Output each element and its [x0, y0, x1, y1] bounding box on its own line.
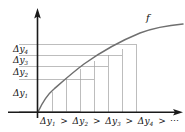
- y-increment-label-1: Δy1: [13, 89, 28, 98]
- y-increment-index-1: 1: [25, 93, 29, 99]
- y-increment-delta-3: Δy: [13, 55, 25, 65]
- inequality-term-1: Δy1: [40, 116, 56, 126]
- inequality-ellipsis: ⋯: [170, 116, 180, 126]
- y-increment-label-2: Δy2: [13, 68, 28, 77]
- y-increment-index-4: 4: [25, 49, 29, 55]
- y-axis: [34, 8, 41, 118]
- y-increment-delta-1: Δy: [13, 88, 25, 98]
- y-increment-delta-2: Δy: [13, 67, 25, 77]
- function-curve: [38, 24, 183, 112]
- horizontal-grid-lines: [19, 45, 136, 112]
- function-label-f: f: [146, 13, 150, 23]
- figure-container: Δy4 Δy3 Δy2 Δy1 f Δy1 > Δy2 > Δy3 > Δy4 …: [0, 0, 185, 132]
- vertical-step-lines: [53, 44, 137, 112]
- y-increment-delta-4: Δy: [13, 44, 25, 54]
- figure-canvas: [0, 0, 185, 132]
- inequality-operator-4: >: [157, 116, 168, 126]
- inequality-operator-3: >: [124, 116, 135, 126]
- y-increment-label-3: Δy3: [13, 56, 28, 65]
- x-axis: [8, 109, 183, 116]
- y-increment-label-4: Δy4: [13, 45, 28, 54]
- inequality-operator-1: >: [59, 116, 70, 126]
- inequality-operator-2: >: [91, 116, 102, 126]
- y-increment-index-3: 3: [25, 60, 29, 66]
- inequality-term-2: Δy2: [73, 116, 89, 126]
- inequality-term-3: Δy3: [105, 116, 121, 126]
- inequality-term-4: Δy4: [138, 116, 154, 126]
- y-increment-index-2: 2: [25, 72, 29, 78]
- inequality-chain: Δy1 > Δy2 > Δy3 > Δy4 > ⋯: [40, 116, 180, 126]
